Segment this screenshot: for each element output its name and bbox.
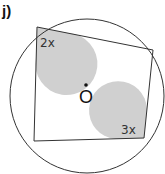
angle-sector-bottom-right — [89, 81, 147, 139]
angle-label-top-left: 2x — [40, 36, 55, 50]
angle-label-bottom-right: 3x — [121, 123, 136, 137]
cyclic-quadrilateral-diagram: O 2x 3x — [0, 0, 165, 174]
center-label: O — [79, 87, 93, 107]
